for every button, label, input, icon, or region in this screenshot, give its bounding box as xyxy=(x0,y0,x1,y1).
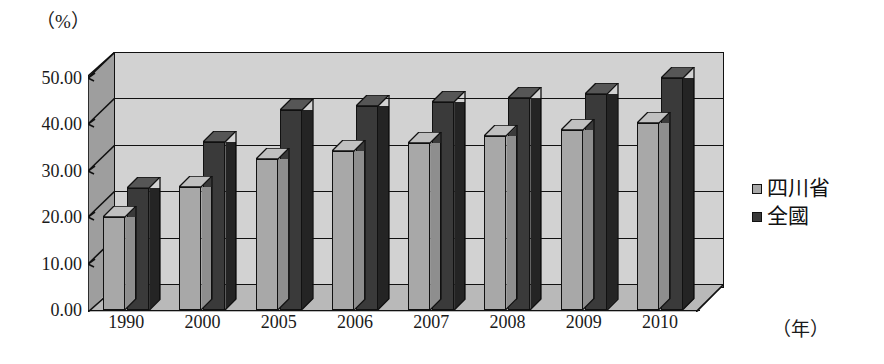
y-axis-tick: 20.00 xyxy=(8,207,82,228)
bar-side xyxy=(530,98,541,310)
bar-side xyxy=(225,142,236,310)
bar-top xyxy=(432,91,465,102)
y-axis-tick: 10.00 xyxy=(8,253,82,274)
bar-top xyxy=(280,99,313,110)
bar-side xyxy=(683,78,694,310)
bar-side xyxy=(607,94,618,310)
bar-2006-sichuan[interactable] xyxy=(332,151,354,310)
bar-top xyxy=(508,87,541,98)
bar-2005-sichuan[interactable] xyxy=(256,159,278,310)
x-axis-tick: 2000 xyxy=(167,312,237,333)
legend-swatch-icon xyxy=(752,184,762,194)
legend-label: 全國 xyxy=(767,206,809,227)
bar-side xyxy=(302,110,313,310)
bar-side xyxy=(149,188,160,310)
bars-container xyxy=(88,52,724,312)
y-axis-tick: 50.00 xyxy=(8,68,82,89)
bar-face xyxy=(637,123,659,310)
x-axis-tick: 2009 xyxy=(549,312,619,333)
bar-side xyxy=(125,217,136,310)
bar-top xyxy=(127,177,160,188)
y-axis-tick: 0.00 xyxy=(8,300,82,321)
bar-side xyxy=(454,102,465,310)
bar-side xyxy=(506,136,517,310)
chart-root: （%） 0.0010.0020.0030.0040.0050.00 199020… xyxy=(0,0,884,364)
legend-label: 四川省 xyxy=(767,178,830,199)
x-axis-tick: 2005 xyxy=(244,312,314,333)
bar-side xyxy=(354,151,365,310)
bar-top xyxy=(585,83,618,94)
y-axis-tick: 40.00 xyxy=(8,114,82,135)
bar-2000-sichuan[interactable] xyxy=(179,187,201,310)
legend-item-sichuan[interactable]: 四川省 xyxy=(752,178,882,199)
bar-2010-sichuan[interactable] xyxy=(637,123,659,310)
bar-2007-sichuan[interactable] xyxy=(408,143,430,310)
bar-face xyxy=(484,136,506,310)
bar-face xyxy=(103,217,125,310)
bar-top xyxy=(661,67,694,78)
x-axis-unit-label: （年） xyxy=(772,314,829,341)
legend: 四川省全國 xyxy=(752,178,882,234)
y-axis-tick-labels: 0.0010.0020.0030.0040.0050.00 xyxy=(8,0,82,364)
plot-area xyxy=(88,52,724,312)
legend-swatch-icon xyxy=(752,212,762,222)
x-axis-tick: 2006 xyxy=(320,312,390,333)
bar-face xyxy=(256,159,278,310)
bar-side xyxy=(201,187,212,310)
bar-side xyxy=(278,159,289,310)
bar-face xyxy=(561,130,583,310)
bar-2009-sichuan[interactable] xyxy=(561,130,583,310)
x-axis-tick: 2007 xyxy=(396,312,466,333)
y-axis-tick: 30.00 xyxy=(8,160,82,181)
x-axis-tick: 1990 xyxy=(91,312,161,333)
bar-face xyxy=(179,187,201,310)
bar-side xyxy=(378,106,389,310)
x-axis-tick: 2010 xyxy=(625,312,695,333)
x-axis-tick: 2008 xyxy=(472,312,542,333)
bar-face xyxy=(408,143,430,310)
legend-item-national[interactable]: 全國 xyxy=(752,206,882,227)
bar-side xyxy=(659,123,670,310)
bar-top xyxy=(203,131,236,142)
bar-side xyxy=(430,143,441,310)
bar-side xyxy=(583,130,594,310)
bar-2008-sichuan[interactable] xyxy=(484,136,506,310)
bar-1990-sichuan[interactable] xyxy=(103,217,125,310)
bar-face xyxy=(332,151,354,310)
bar-top xyxy=(356,95,389,106)
